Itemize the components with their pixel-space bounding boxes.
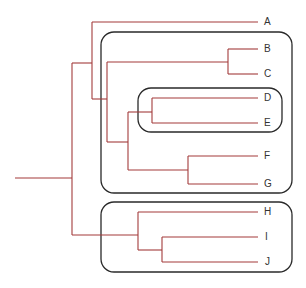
tip-label-c: C [264, 68, 271, 79]
node-f-g [188, 156, 258, 184]
node-b-c [228, 49, 258, 74]
tip-label-e: E [264, 117, 271, 128]
tip-label-a: A [264, 16, 271, 27]
tip-label-f: F [264, 150, 270, 161]
tip-label-b: B [264, 43, 271, 54]
tip-label-g: G [264, 178, 272, 189]
clade-box-d-e [138, 88, 282, 132]
node-de-fg [128, 112, 188, 170]
tip-label-d: D [264, 92, 271, 103]
root-node [15, 63, 138, 235]
phylogenetic-tree: A B C D E F G H I J [0, 0, 306, 288]
node-h-ij [138, 212, 258, 250]
tip-label-j: J [265, 256, 270, 267]
node-b-g [107, 62, 228, 142]
tip-label-h: H [264, 206, 271, 217]
node-d-e [152, 98, 258, 123]
node-i-j [162, 237, 258, 262]
tip-label-i: I [265, 231, 268, 242]
